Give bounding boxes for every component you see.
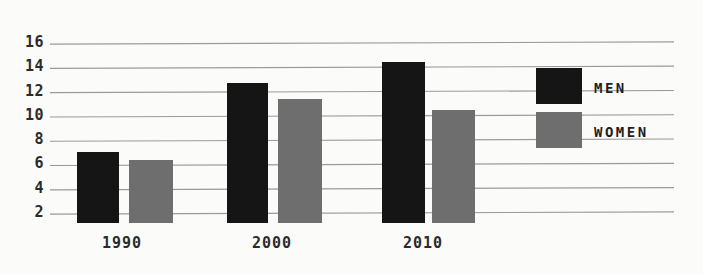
legend-swatch-women [536,112,582,148]
y-axis-tick-label: 10 [8,108,44,123]
bar-2000-men [227,83,268,223]
y-axis-tick-label: 16 [8,35,44,50]
y-axis-tick-label: 14 [8,59,44,74]
y-axis-tick-label: 8 [8,132,44,147]
x-axis-tick-label-1990: 1990 [72,236,172,251]
bar-2010-men [382,62,425,223]
legend-label-women: WOMEN [594,125,649,139]
bar-2000-women [278,99,322,223]
bar-1990-men [77,152,119,223]
y-axis-tick-label: 6 [8,156,44,171]
legend-label-men: MEN [594,81,627,95]
y-axis-tick-label: 12 [8,84,44,99]
bar-1990-women [129,160,173,223]
x-axis-tick-label-2010: 2010 [373,236,473,251]
x-axis-tick-label-2000: 2000 [222,236,322,251]
y-axis-tick-label: 2 [8,205,44,220]
gridline [50,42,674,44]
bar-chart: 161412108642 199020002010 MENWOMEN [0,0,703,275]
bar-2010-women [432,110,475,223]
y-axis-tick-label: 4 [8,181,44,196]
legend-swatch-men [536,68,582,104]
